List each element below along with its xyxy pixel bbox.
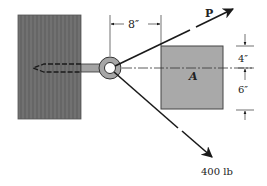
eye-bolt [81,57,121,79]
block-a-label: A [188,70,198,83]
dimension-8in: 8″ [110,15,161,56]
wood-support [18,15,81,119]
block-a: A [161,46,223,109]
force-p-label: P [205,7,213,20]
dimension-8in-label: 8″ [128,18,139,31]
dimension-vertical: 4″ 6″ [236,34,254,120]
dimension-4in-label: 4″ [238,53,248,64]
force-400lb-label: 400 lb [201,166,233,177]
dimension-6in-label: 6″ [238,84,248,95]
force-diagram: A 8″ 4″ 6″ P 400 lb [0,0,267,186]
